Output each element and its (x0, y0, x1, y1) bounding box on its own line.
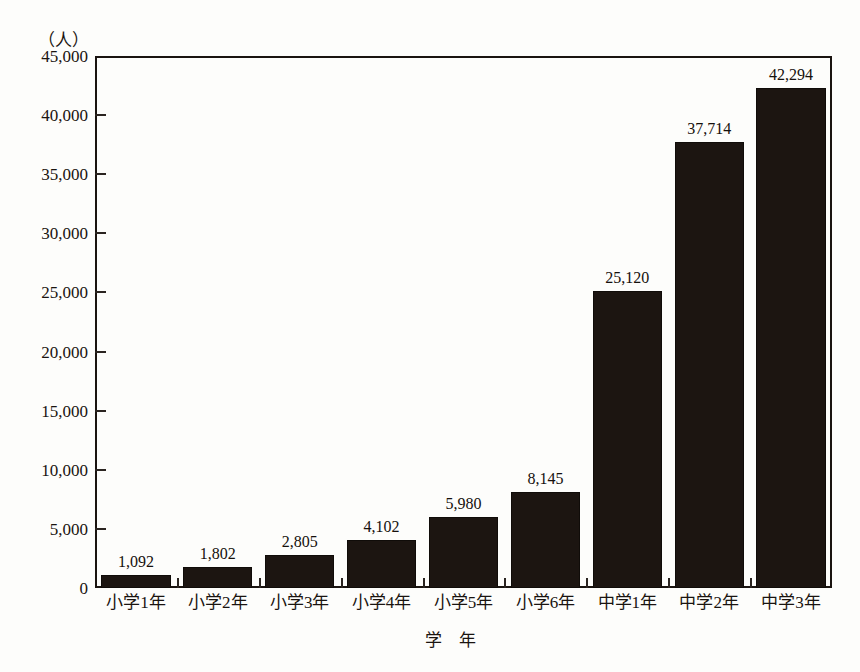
y-axis-tick-label: 20,000 (2, 344, 88, 361)
bar (675, 142, 744, 588)
bar-value-label: 42,294 (750, 67, 832, 83)
bar (756, 88, 825, 588)
bar (347, 540, 416, 588)
bar-value-label: 4,102 (341, 519, 423, 535)
x-axis-title: 学 年 (0, 626, 860, 651)
x-axis-tick (177, 578, 179, 588)
bar-value-label: 8,145 (504, 471, 586, 487)
x-axis-category-label: 小学3年 (259, 594, 341, 611)
y-axis-tick (95, 291, 106, 293)
x-axis-category-label: 中学1年 (586, 594, 668, 611)
y-axis-tick (95, 173, 106, 175)
x-axis-category-label: 小学2年 (177, 594, 259, 611)
x-axis-tick (668, 578, 670, 588)
bar (593, 291, 662, 588)
bar (183, 567, 252, 588)
x-axis-category-label: 小学6年 (504, 594, 586, 611)
x-axis-category-label: 小学5年 (423, 594, 505, 611)
y-axis-tick (95, 232, 106, 234)
x-axis-category-label: 中学3年 (750, 594, 832, 611)
plot-area: 1,0921,8022,8054,1025,9808,14525,12037,7… (95, 56, 832, 588)
y-axis-tick (95, 351, 106, 353)
x-axis-tick (750, 578, 752, 588)
bar (101, 575, 170, 588)
bar-value-label: 1,802 (177, 546, 259, 562)
x-axis-category-label: 小学4年 (341, 594, 423, 611)
y-axis-tick-label: 30,000 (2, 225, 88, 242)
y-axis-tick-label: 5,000 (2, 521, 88, 538)
bar-value-label: 2,805 (259, 534, 341, 550)
y-axis-tick-label: 25,000 (2, 284, 88, 301)
x-axis-category-label: 中学2年 (668, 594, 750, 611)
y-axis-tick (95, 469, 106, 471)
x-axis-tick (259, 578, 261, 588)
y-axis-tick-label-group: 05,00010,00015,00020,00025,00030,00035,0… (0, 56, 88, 588)
y-axis-tick-label: 0 (2, 580, 88, 597)
bar (429, 517, 498, 588)
bar-chart: （人） 05,00010,00015,00020,00025,00030,000… (0, 0, 860, 672)
x-axis-tick (341, 578, 343, 588)
y-axis-tick-label: 40,000 (2, 107, 88, 124)
y-axis-tick-label: 35,000 (2, 166, 88, 183)
y-axis-tick-label: 45,000 (2, 48, 88, 65)
x-axis-category-label: 小学1年 (95, 594, 177, 611)
y-axis-tick-label: 15,000 (2, 403, 88, 420)
bar (265, 555, 334, 588)
x-axis-title-text: 学 年 (425, 631, 476, 650)
x-axis-tick (504, 578, 506, 588)
y-axis-tick (95, 114, 106, 116)
bar (511, 492, 580, 588)
bar-value-label: 37,714 (668, 121, 750, 137)
bar-value-label: 25,120 (586, 270, 668, 286)
x-axis-tick (423, 578, 425, 588)
bar-value-label: 1,092 (95, 554, 177, 570)
y-axis-tick (95, 410, 106, 412)
bar-value-label: 5,980 (423, 496, 505, 512)
y-axis-tick (95, 528, 106, 530)
y-axis-tick-label: 10,000 (2, 462, 88, 479)
x-axis-tick (586, 578, 588, 588)
